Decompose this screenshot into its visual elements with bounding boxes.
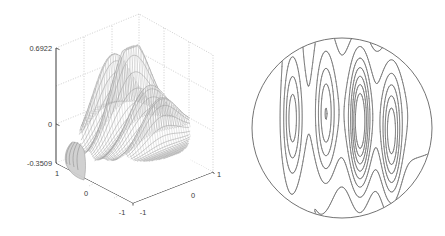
- surface-left-wall: [65, 142, 85, 180]
- contour-boundary-circle: [252, 38, 432, 218]
- surface-plot-svg: 0.6922 0 -0.3509 1 0 -1 -1 0 1: [0, 0, 230, 236]
- x-tick-label-0: 0: [84, 189, 88, 198]
- matlab-figure: 0.6922 0 -0.3509 1 0 -1 -1 0 1: [0, 0, 445, 236]
- contour-plot-svg: [228, 0, 445, 236]
- y-tick-label-0: 0: [191, 191, 195, 200]
- y-tick-label-1: 1: [217, 170, 221, 179]
- contour-lines: [280, 39, 427, 214]
- surface-plot-panel: 0.6922 0 -0.3509 1 0 -1 -1 0 1: [0, 0, 230, 236]
- z-tick-label-min: -0.3509: [27, 159, 52, 168]
- x-tick-label-1: 1: [55, 169, 59, 178]
- x-tick-label-neg1: -1: [119, 208, 126, 217]
- z-tick-label-max: 0.6922: [29, 44, 52, 53]
- y-tick-label-neg1: -1: [140, 208, 147, 217]
- mesh-strips: [79, 45, 190, 193]
- z-tick-label-zero: 0: [48, 120, 52, 129]
- contour-plot-panel: [228, 0, 445, 236]
